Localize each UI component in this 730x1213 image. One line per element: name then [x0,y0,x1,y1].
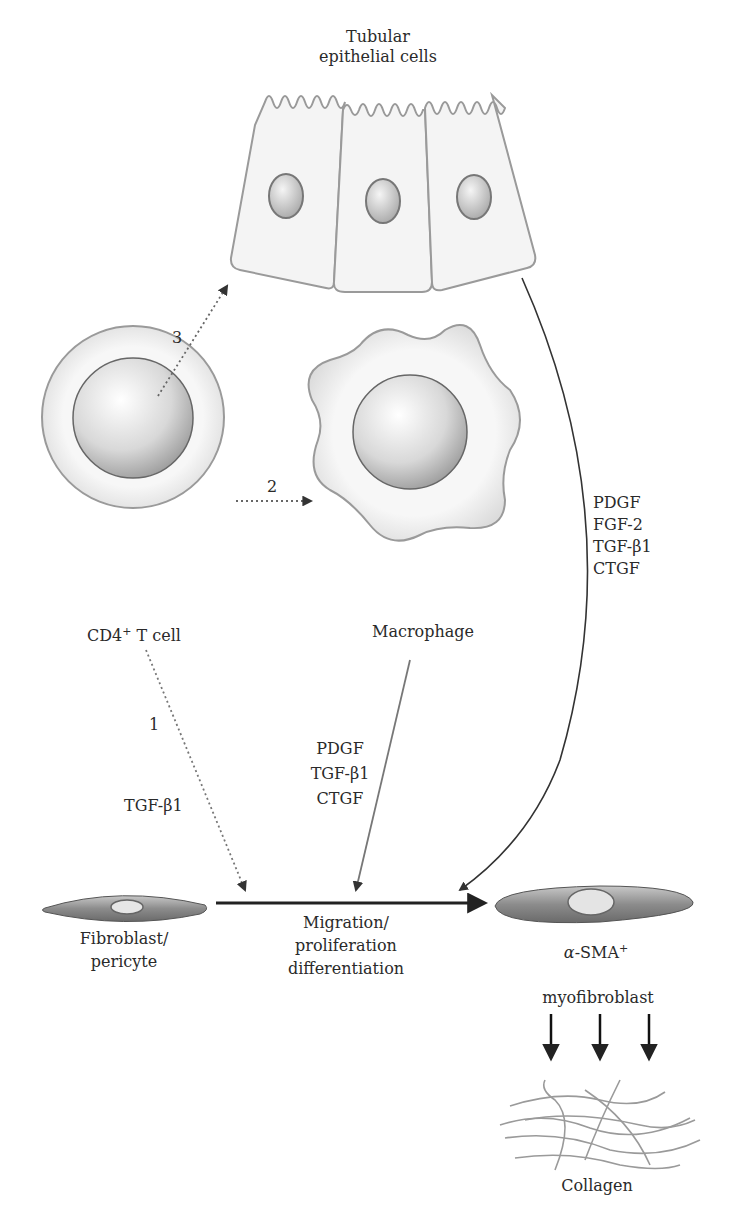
collagen-label: Collagen [561,1176,633,1196]
macrophage-factors: PDGF TGF-β1 CTGF [311,736,370,811]
epithelial-factors: PDGF FGF-2 TGF-β1 CTGF [593,492,652,580]
epithelial-cells-label: Tubular epithelial cells [319,27,437,67]
fibroblast-label: Fibroblast/ pericyte [80,927,169,973]
epithelial-cells-illustration [231,95,535,292]
tcell-illustration [42,326,224,508]
myofibroblast-label: myofibroblast [542,988,654,1008]
myofibroblast-marker-label: α-SMA+ [564,939,628,963]
process-label: Migration/ proliferation differentiation [288,911,404,980]
pathway-2-number: 2 [267,477,277,497]
macrophage-label: Macrophage [372,622,474,642]
pathway-1-number: 1 [149,715,159,735]
pathway-1-factor: TGF-β1 [124,796,183,816]
myofibroblast-illustration [495,886,693,923]
tcell-label: CD4+ T cell [87,622,181,646]
macrophage-illustration [309,325,520,541]
fibroblast-illustration [43,896,207,922]
fibrosis-diagram: Tubular epithelial cells 3 2 CD4+ T cell… [0,0,730,1213]
pathway-3-number: 3 [172,328,182,348]
collagen-fibers-illustration [500,1080,700,1170]
pathway-1-arrow [146,650,245,890]
